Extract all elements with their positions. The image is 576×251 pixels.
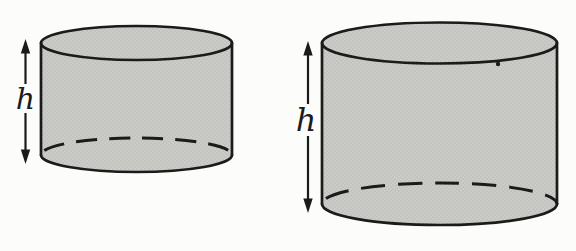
large-cylinder-height-label: h (296, 101, 317, 139)
ink-speck (496, 62, 500, 66)
down-arrowhead-icon (21, 150, 30, 165)
small-cylinder-height-label: h (16, 81, 35, 116)
cylinders-diagram: h h (0, 0, 576, 251)
down-arrowhead-icon (303, 199, 312, 214)
small-cylinder-height-dimension: h (16, 39, 35, 164)
large-cylinder-body (322, 43, 557, 225)
small-cylinder-body (41, 43, 232, 172)
two-cylinders-figure: h h (0, 0, 576, 251)
small-cylinder (41, 26, 232, 172)
large-cylinder (322, 23, 557, 226)
large-cylinder-height-dimension: h (296, 41, 317, 213)
